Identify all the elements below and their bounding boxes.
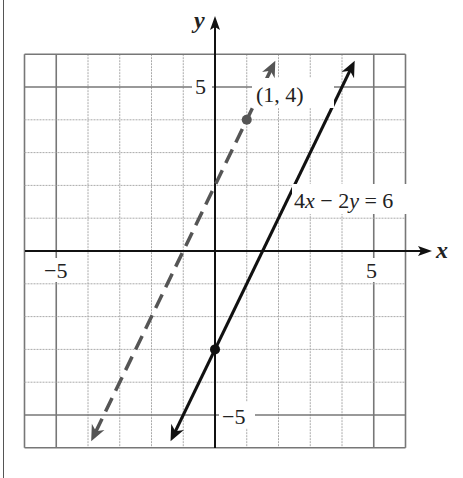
point-0-neg3 — [210, 344, 220, 354]
y-axis-label: y — [191, 7, 205, 33]
equation-label: 4x − 2y = 6 — [294, 188, 393, 213]
x-tick-label-neg5: −5 — [44, 258, 67, 283]
point-1-4 — [242, 115, 252, 125]
point-label: (1, 4) — [256, 82, 304, 107]
axes — [25, 16, 432, 448]
y-tick-label-5: 5 — [195, 74, 206, 99]
x-tick-label-5: 5 — [366, 258, 377, 283]
y-tick-label-neg5: −5 — [222, 404, 245, 429]
x-axis-label: x — [435, 237, 448, 263]
